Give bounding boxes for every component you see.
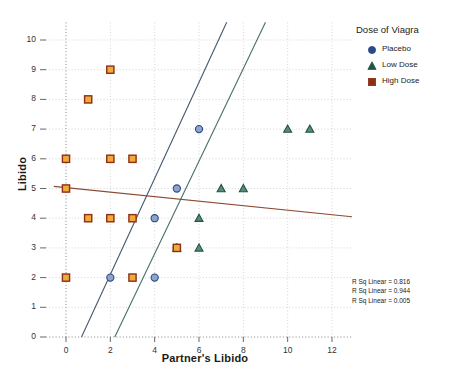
data-point-low-dose [195,214,203,221]
r-squared-annotations: R Sq Linear = 0.816R Sq Linear = 0.944R … [352,277,410,305]
scatterplot-figure: Libido Partner's Libido 012345678910 024… [0,0,455,376]
data-point-placebo [173,185,180,192]
legend-item-label: High Dose [382,76,419,85]
x-tick-label: 0 [55,345,77,355]
data-point-high-dose [62,155,69,162]
y-tick-label: 0 [14,331,36,341]
x-tick-label: 2 [99,345,121,355]
data-point-high-dose [85,96,92,103]
legend: Dose of Viagra PlaceboLow DoseHigh Dose [352,24,452,90]
y-axis-title: Libido [16,134,28,214]
y-tick-label: 8 [14,93,36,103]
legend-item-label: Placebo [382,44,411,53]
data-point-placebo [107,274,114,281]
data-point-high-dose [85,215,92,222]
r-squared-line: R Sq Linear = 0.816 [352,277,410,286]
square-marker-icon [365,74,379,86]
y-tick-label: 1 [14,301,36,311]
data-point-high-dose [173,244,180,251]
data-point-placebo [195,126,202,133]
x-tick-label: 10 [277,345,299,355]
r-squared-line: R Sq Linear = 0.005 [352,296,410,305]
data-point-high-dose [129,215,136,222]
data-point-high-dose [107,155,114,162]
y-tick-label: 6 [14,153,36,163]
x-tick-label: 4 [144,345,166,355]
data-point-low-dose [217,185,225,192]
legend-item-label: Low Dose [382,60,418,69]
legend-item-high-dose[interactable]: High Dose [365,74,452,86]
data-point-high-dose [129,155,136,162]
y-tick-label: 10 [14,34,36,44]
y-tick-label: 5 [14,183,36,193]
data-point-high-dose [107,215,114,222]
x-tick-label: 6 [188,345,210,355]
data-point-low-dose [239,185,247,192]
triangle-marker-icon [365,58,379,70]
data-point-high-dose [62,274,69,281]
y-tick-label: 2 [14,272,36,282]
data-point-low-dose [284,125,292,132]
legend-title: Dose of Viagra [356,24,452,35]
y-tick-label: 9 [14,64,36,74]
x-tick-label: 8 [232,345,254,355]
data-point-high-dose [107,66,114,73]
y-tick-label: 4 [14,212,36,222]
data-point-low-dose [306,125,314,132]
circle-marker-icon [365,42,379,54]
y-tick-label: 7 [14,123,36,133]
data-point-placebo [151,215,158,222]
fit-line-placebo [82,22,227,337]
data-point-low-dose [195,244,203,251]
y-tick-label: 3 [14,242,36,252]
data-point-high-dose [62,185,69,192]
legend-items: PlaceboLow DoseHigh Dose [352,42,452,86]
x-tick-label: 12 [321,345,343,355]
data-point-placebo [151,274,158,281]
r-squared-line: R Sq Linear = 0.944 [352,286,410,295]
legend-item-low-dose[interactable]: Low Dose [365,58,452,70]
data-point-high-dose [129,274,136,281]
fit-line-high-dose [54,186,352,216]
legend-item-placebo[interactable]: Placebo [365,42,452,54]
